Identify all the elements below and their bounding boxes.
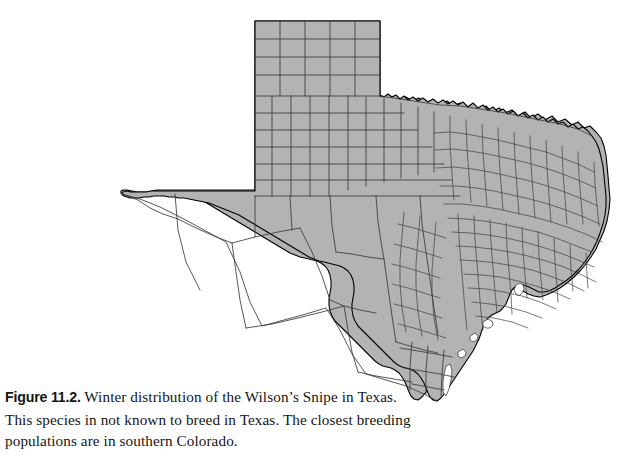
figure-caption: Figure 11.2. Winter distribution of the … bbox=[5, 386, 435, 452]
caption-line-2: This species in not known to breed in Te… bbox=[5, 409, 435, 431]
figure-container: Figure 11.2. Winter distribution of the … bbox=[0, 0, 636, 468]
figure-number-label: Figure 11.2. bbox=[5, 389, 81, 405]
caption-text-line-1: Winter distribution of the Wilson’s Snip… bbox=[84, 388, 397, 405]
caption-line-1: Figure 11.2. Winter distribution of the … bbox=[5, 386, 435, 409]
caption-line-3: populations are in southern Colorado. bbox=[5, 430, 435, 452]
map-svg bbox=[0, 0, 636, 410]
texas-distribution-map bbox=[0, 0, 636, 410]
